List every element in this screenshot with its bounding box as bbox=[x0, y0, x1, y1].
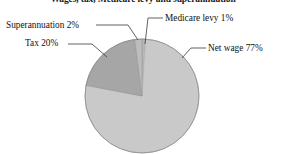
leader-line-net-wage bbox=[182, 48, 206, 58]
callout-label-tax: Tax 20% bbox=[25, 38, 58, 49]
callout-label-superannuation: Superannuation 2% bbox=[6, 20, 79, 31]
callout-label-net-wage: Net wage 77% bbox=[208, 43, 263, 54]
leader-line-tax bbox=[68, 44, 107, 57]
pie-chart-figure: Wages, tax, Medicare levy and superannua… bbox=[0, 0, 286, 154]
callout-label-medicare-levy: Medicare levy 1% bbox=[165, 13, 233, 24]
leader-line-superannuation bbox=[96, 25, 138, 40]
